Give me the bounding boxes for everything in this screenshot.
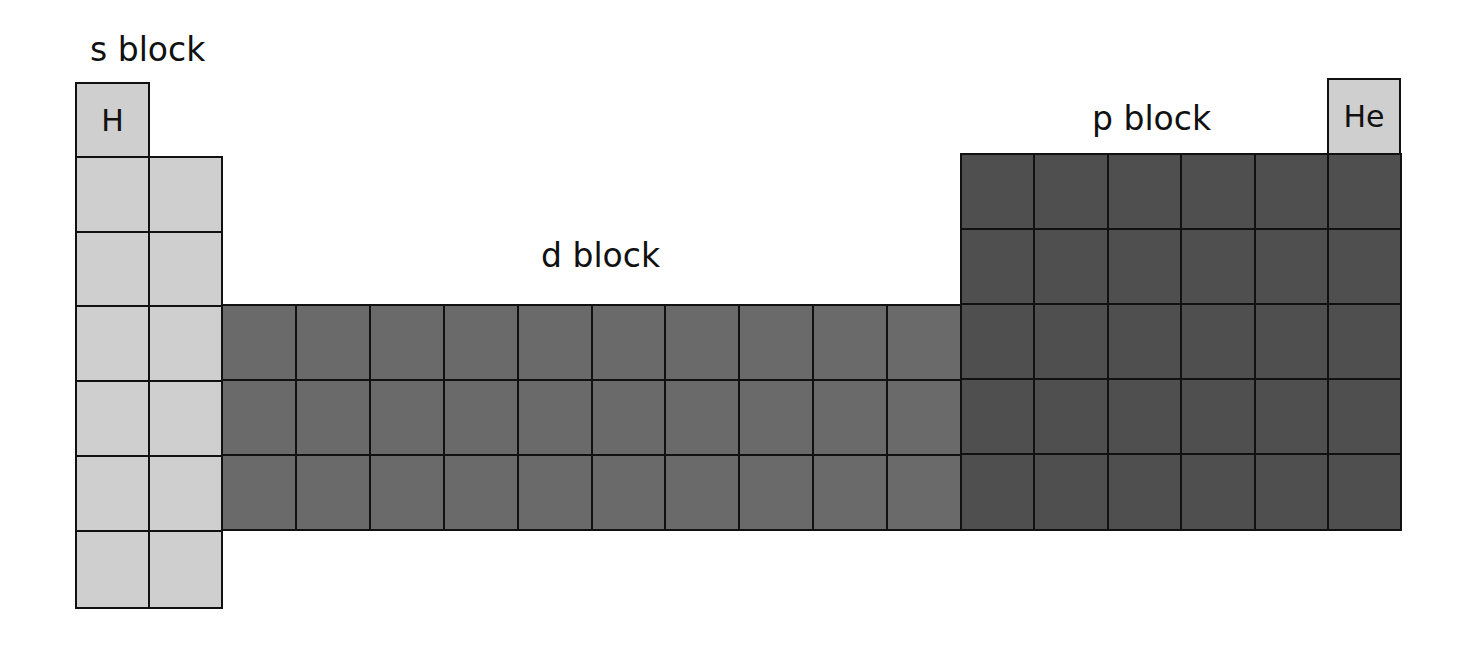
s-block-cell: [75, 530, 150, 609]
p-block-cell: [1180, 303, 1256, 380]
d-block-cell: [812, 454, 888, 531]
p-block-cell: [960, 303, 1035, 380]
d-block-cell: [295, 454, 371, 531]
d-block-cell: [664, 304, 740, 381]
p-block-cell: [1107, 228, 1182, 305]
d-block-cell: [738, 304, 814, 381]
s-block-cell: [75, 156, 150, 233]
s-block-cell: [148, 455, 223, 532]
p-block-cell: [1033, 303, 1109, 380]
d-block-cell: [221, 454, 297, 531]
d-block-cell: [221, 304, 297, 381]
d-block-cell: [664, 454, 740, 531]
d-block-cell: [369, 379, 445, 456]
p-block-cell: [1107, 153, 1182, 230]
p-block-cell: [960, 153, 1035, 230]
p-block-cell: [1180, 378, 1256, 455]
p-block-cell: [960, 378, 1035, 455]
d-block-cell: [886, 379, 962, 456]
p-block-cell: [1180, 453, 1256, 531]
s-block-label: s block: [90, 30, 205, 69]
d-block-cell: [886, 304, 962, 381]
s-block-cell: [75, 455, 150, 532]
s-block-cell: [75, 231, 150, 307]
d-block-cell: [517, 379, 593, 456]
s-block-cell: [148, 530, 223, 609]
element-cell-hydrogen: H: [75, 82, 150, 158]
s-block-cell: [75, 305, 150, 382]
p-block-cell: [1254, 453, 1329, 531]
p-block-cell: [1254, 303, 1329, 380]
d-block-cell: [738, 454, 814, 531]
d-block-cell: [443, 379, 519, 456]
p-block-cell: [1033, 228, 1109, 305]
d-block-cell: [738, 379, 814, 456]
s-block-cell: [148, 305, 223, 382]
d-block-cell: [591, 304, 666, 381]
p-block-cell: [1033, 453, 1109, 531]
s-block-cell: [148, 231, 223, 307]
p-block-cell: [1107, 303, 1182, 380]
p-block-cell: [1254, 153, 1329, 230]
d-block-cell: [221, 379, 297, 456]
p-block-label: p block: [1092, 99, 1211, 138]
s-block-cell: [148, 156, 223, 233]
element-cell-helium: He: [1327, 78, 1401, 155]
p-block-cell: [1180, 228, 1256, 305]
d-block-cell: [591, 379, 666, 456]
s-block-cell: [75, 380, 150, 457]
p-block-cell: [1327, 453, 1402, 531]
p-block-cell: [960, 228, 1035, 305]
d-block-cell: [517, 304, 593, 381]
p-block-cell: [1327, 303, 1402, 380]
p-block-cell: [1254, 378, 1329, 455]
p-block-cell: [1180, 153, 1256, 230]
d-block-cell: [369, 304, 445, 381]
d-block-cell: [295, 304, 371, 381]
d-block-label: d block: [541, 236, 660, 275]
p-block-cell: [1107, 378, 1182, 455]
d-block-cell: [443, 454, 519, 531]
p-block-cell: [1033, 378, 1109, 455]
d-block-cell: [295, 379, 371, 456]
d-block-cell: [886, 454, 962, 531]
p-block-cell: [1033, 153, 1109, 230]
d-block-cell: [812, 304, 888, 381]
p-block-cell: [1327, 378, 1402, 455]
s-block-cell: [148, 380, 223, 457]
d-block-cell: [517, 454, 593, 531]
d-block-cell: [591, 454, 666, 531]
p-block-cell: [1107, 453, 1182, 531]
p-block-cell: [1327, 228, 1402, 305]
d-block-cell: [443, 304, 519, 381]
p-block-cell: [1327, 153, 1402, 230]
p-block-cell: [1254, 228, 1329, 305]
d-block-cell: [369, 454, 445, 531]
d-block-cell: [664, 379, 740, 456]
p-block-cell: [960, 453, 1035, 531]
d-block-cell: [812, 379, 888, 456]
